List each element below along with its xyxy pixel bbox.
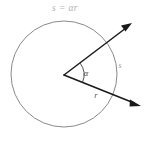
- arc-length-s-label: s: [119, 61, 122, 70]
- radius-r-label: r: [94, 90, 98, 100]
- angle-alpha-label: α: [84, 68, 89, 78]
- lower-ray-arrowhead-icon: [130, 100, 142, 107]
- arc-length-diagram: s = αr α s r: [0, 0, 148, 142]
- diagram-canvas: s = αr α s r: [0, 0, 148, 142]
- circle-outline: [11, 21, 117, 127]
- arc-length-formula-label: s = αr: [52, 3, 78, 13]
- lower-ray-line: [64, 75, 134, 103]
